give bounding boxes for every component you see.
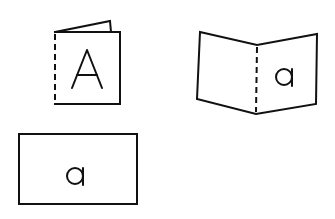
front-cover-outline xyxy=(55,32,120,104)
open-booklet-figure: a xyxy=(197,32,317,114)
letter-a-uppercase: A xyxy=(72,50,102,88)
letter-a-lowercase: a xyxy=(276,69,292,86)
letter-a-lowercase: a xyxy=(67,168,83,185)
flat-sheet-figure: a xyxy=(19,134,137,204)
center-spine-fold-line xyxy=(256,47,257,112)
back-page-edge xyxy=(55,21,111,32)
closed-booklet-figure: A xyxy=(55,21,120,104)
diagram-canvas: A a a xyxy=(0,0,335,219)
